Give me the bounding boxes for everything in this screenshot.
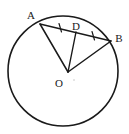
tick-mark-db [92, 32, 95, 41]
circle-outline [8, 16, 118, 126]
point-label-b: B [115, 32, 122, 44]
tick-mark-ad [59, 24, 62, 33]
segment-ob [68, 41, 111, 72]
geometry-figure: A D B O [0, 0, 129, 134]
center-dot [73, 79, 74, 80]
point-label-d: D [72, 20, 80, 32]
segment-od [68, 32, 76, 72]
point-label-o: O [55, 77, 63, 89]
point-label-a: A [27, 9, 35, 21]
segment-oa [40, 24, 68, 72]
geometry-canvas: A D B O [0, 0, 129, 134]
